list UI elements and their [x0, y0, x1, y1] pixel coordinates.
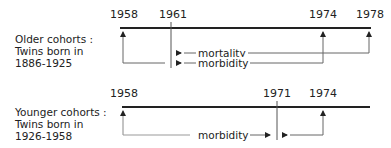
- older-year-1958: 1958: [110, 9, 138, 21]
- younger-year-1958: 1958: [110, 88, 138, 100]
- older-cohort-subtitle: Twins born in: [15, 45, 83, 57]
- younger-cohort-title: Younger cohorts :: [15, 106, 107, 118]
- older-cohort-title: Older cohorts :: [15, 33, 93, 45]
- older-year-1978: 1978: [356, 9, 384, 21]
- older-year-1961: 1961: [159, 9, 187, 21]
- older-cohort-years: 1886-1925: [15, 57, 72, 69]
- older-morbidity-label: morbidity: [196, 57, 250, 69]
- younger-year-1971: 1971: [263, 88, 291, 100]
- younger-year-1974: 1974: [309, 88, 337, 100]
- older-mortality-connector: [248, 32, 369, 53]
- older-morbidity-connector: [248, 32, 323, 63]
- younger-cohort-subtitle: Twins born in: [15, 118, 83, 130]
- older-year-1974: 1974: [309, 9, 337, 21]
- older-1958-connector: [123, 32, 165, 63]
- younger-morbidity-label: morbidity: [196, 129, 250, 141]
- younger-cohort-years: 1926-1958: [15, 130, 72, 142]
- younger-morbidity-connector: [290, 111, 323, 135]
